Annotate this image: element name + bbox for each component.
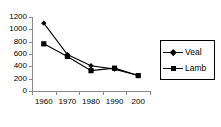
line-chart: 020040060080010001200 196019701980199020… [0,0,221,127]
x-axis-tick-label: 1980 [82,98,100,106]
y-axis-tick-label: 0 [23,87,27,95]
legend-label: Veal [185,48,202,57]
plot-area: 020040060080010001200 [32,17,150,91]
legend-item-lamb[interactable]: Lamb [163,60,212,76]
data-point-marker-diamond [88,63,93,68]
chart-legend: VealLamb [160,40,215,80]
y-axis-tick-label: 400 [14,62,27,70]
y-axis-tick-label: 1200 [9,13,27,21]
x-axis-tick-label: 1970 [58,98,76,106]
x-axis-tick [150,92,151,95]
data-point-marker-square [88,68,93,73]
x-axis-tick [103,92,104,95]
x-axis-tick [126,92,127,95]
y-axis-tick-label: 200 [14,75,27,83]
y-axis-tick-label: 800 [14,38,27,46]
legend-marker-diamond-icon [163,46,183,58]
y-axis-tick-label: 1000 [9,25,27,33]
x-axis-tick [79,92,80,95]
series-layer [32,17,150,91]
data-point-marker-square [112,66,117,71]
legend-item-veal[interactable]: Veal [163,44,212,60]
x-axis-tick [32,92,33,95]
x-axis-tick [56,92,57,95]
x-axis-tick-label: 1960 [35,98,53,106]
x-axis-tick-label: 200 [132,98,145,106]
legend-label: Lamb [185,64,206,73]
data-point-marker-square [65,54,70,59]
legend-marker-square-icon [163,62,183,74]
x-axis-tick-label: 1990 [106,98,124,106]
data-point-marker-square [136,73,141,78]
x-axis-ticks: 1960197019801990200 [32,92,151,122]
data-point-marker-square [41,41,46,46]
y-axis-tick-label: 600 [14,50,27,58]
